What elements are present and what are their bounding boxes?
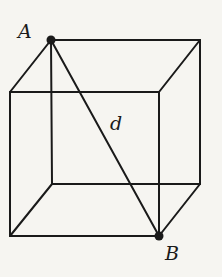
edge-connect-bottom-right (159, 184, 200, 236)
edge-back-left (51, 40, 52, 184)
vertex-a-label: A (18, 22, 32, 41)
space-diagonal-d (51, 40, 159, 236)
edge-connect-top-left (10, 40, 51, 92)
vertex-a-dot (47, 36, 56, 45)
edge-connect-top-right (159, 40, 200, 92)
edge-connect-bottom-left (10, 184, 52, 236)
vertex-b-dot (155, 232, 164, 241)
cube-diagram (0, 0, 222, 277)
vertex-b-label: B (165, 244, 179, 263)
diagonal-label: d (110, 114, 122, 133)
